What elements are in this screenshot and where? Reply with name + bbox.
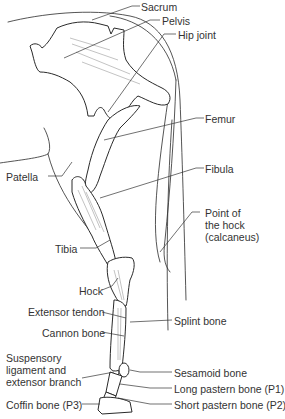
label-suspensory-ligament: Suspensory ligament and extensor branch (6, 352, 81, 388)
pelvis-bone (30, 22, 170, 121)
label-extensor-tendon: Extensor tendon (28, 306, 104, 318)
label-tibia: Tibia (55, 243, 77, 255)
long-pastern-bone (106, 372, 122, 396)
label-short-pastern-bone: Short pastern bone (P2) (174, 399, 285, 411)
label-hip-joint: Hip joint (178, 29, 216, 41)
femur-bone (85, 106, 140, 194)
label-patella: Patella (6, 171, 38, 183)
label-hock: Hock (79, 285, 103, 297)
label-point-of-hock: Point of the hock (calcaneus) (205, 207, 259, 243)
horse-hind-leg-diagram: Sacrum Pelvis Hip joint Femur Patella Fi… (0, 0, 285, 419)
sesamoid-bone (119, 363, 129, 377)
label-fibula: Fibula (205, 163, 234, 175)
label-sesamoid-bone: Sesamoid bone (174, 367, 247, 379)
label-sacrum: Sacrum (141, 1, 177, 13)
label-cannon-bone: Cannon bone (42, 327, 105, 339)
label-long-pastern-bone: Long pastern bone (P1) (174, 383, 284, 395)
hock-bone (107, 257, 134, 306)
label-pelvis: Pelvis (162, 15, 190, 27)
label-splint-bone: Splint bone (174, 315, 227, 327)
label-coffin-bone: Coffin bone (P3) (6, 399, 82, 411)
label-femur: Femur (205, 113, 235, 125)
